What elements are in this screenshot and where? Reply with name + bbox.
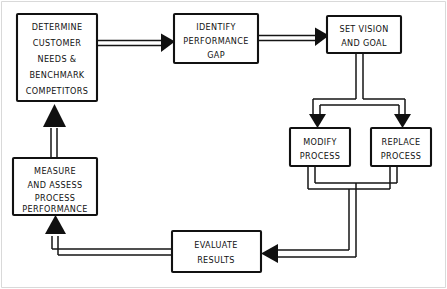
measure-line-3: PROCESS (35, 193, 75, 203)
identify-line-1: IDENTIFY (196, 22, 236, 32)
identify-line-3: GAP (207, 50, 225, 60)
edge-measure-to-determine (43, 104, 66, 158)
determine-line-1: DETERMINE (32, 22, 83, 32)
vision-line-1: SET VISION (339, 24, 388, 34)
determine-line-2: CUSTOMER (33, 38, 82, 48)
replace-line-2: PROCESS (381, 151, 421, 161)
edge-vision-to-modify-and-replace (309, 53, 411, 128)
edge-identify-to-vision (258, 28, 329, 47)
measure-line-1: MEASURE (34, 166, 76, 176)
determine-line-5: COMPETITORS (26, 86, 88, 96)
modify-process-box[interactable]: MODIFY PROCESS (290, 128, 350, 166)
edge-evaluate-to-measure (45, 215, 172, 255)
identify-performance-gap-box[interactable]: IDENTIFY PERFORMANCE GAP (174, 14, 258, 63)
edge-determine-to-identify (97, 34, 175, 53)
evaluate-line-2: RESULTS (197, 255, 235, 265)
measure-line-4: PERFORMANCE (22, 204, 87, 214)
identify-line-2: PERFORMANCE (183, 36, 248, 46)
modify-line-2: PROCESS (300, 151, 340, 161)
determine-line-4: BENCHMARK (29, 70, 84, 80)
evaluate-line-1: EVALUATE (194, 240, 237, 250)
flowchart-canvas: DETERMINE CUSTOMER NEEDS & BENCHMARK COM… (0, 0, 447, 289)
edge-processes-to-evaluate (261, 166, 397, 263)
modify-line-1: MODIFY (303, 137, 337, 147)
flowchart-svg: DETERMINE CUSTOMER NEEDS & BENCHMARK COM… (0, 0, 447, 289)
determine-customer-needs-box[interactable]: DETERMINE CUSTOMER NEEDS & BENCHMARK COM… (17, 14, 97, 101)
vision-line-2: AND GOAL (341, 38, 387, 48)
evaluate-results-box[interactable]: EVALUATE RESULTS (172, 231, 261, 272)
determine-line-3: NEEDS & (38, 54, 77, 64)
replace-line-1: REPLACE (382, 137, 421, 147)
measure-line-2: AND ASSESS (27, 180, 82, 190)
measure-and-assess-box[interactable]: MEASURE AND ASSESS PROCESS PERFORMANCE (13, 158, 97, 215)
set-vision-and-goal-box[interactable]: SET VISION AND GOAL (327, 16, 401, 53)
replace-process-box[interactable]: REPLACE PROCESS (371, 128, 431, 166)
